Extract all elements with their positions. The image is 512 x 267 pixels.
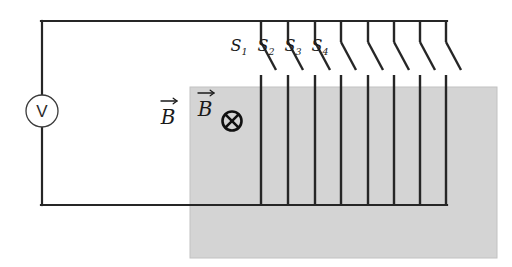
switch-label-s4: S4 [311,36,328,57]
voltmeter: V [26,95,58,127]
vector-arrow-icon [161,98,177,104]
physics-figure: V S1S2S3S4 B B [0,0,512,267]
switch-blade[interactable] [446,42,461,70]
switch-blade[interactable] [394,42,409,70]
switch-blade[interactable] [420,42,435,70]
b-field-label-outside: B [160,98,177,129]
voltmeter-label: V [36,102,48,121]
b-field-symbol-inside: B [197,97,213,121]
switch-blade[interactable] [341,42,356,70]
b-field-symbol-outside: B [160,105,176,129]
switch-labels: S1S2S3S4 [230,36,328,57]
switch-label-s1: S1 [230,36,247,57]
circuit-diagram-canvas: V S1S2S3S4 B B [0,0,512,267]
switch-blade[interactable] [368,42,383,70]
switch-label-s3: S3 [284,36,301,57]
switch-label-s2: S2 [257,36,274,57]
